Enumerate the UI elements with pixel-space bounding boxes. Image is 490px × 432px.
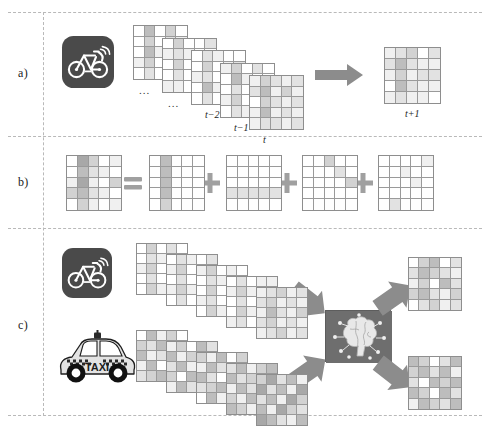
grid-cell bbox=[167, 285, 177, 295]
grid-cell bbox=[207, 373, 217, 383]
grid-cell bbox=[429, 48, 440, 59]
grid-cell bbox=[192, 83, 203, 94]
grid-cell bbox=[440, 300, 450, 310]
grid-cell bbox=[292, 108, 303, 119]
grid-cell bbox=[297, 328, 307, 338]
grid-cell bbox=[177, 342, 187, 352]
grid-cell bbox=[429, 92, 440, 103]
grid-cell bbox=[147, 274, 157, 284]
grid-cell bbox=[440, 258, 450, 268]
grid-cell bbox=[297, 405, 307, 415]
grid-cell bbox=[419, 378, 429, 388]
grid-cell bbox=[99, 156, 110, 167]
grid-cell bbox=[335, 156, 346, 167]
grid-cell bbox=[89, 199, 100, 210]
grid-cell bbox=[221, 95, 232, 106]
grid-cell bbox=[227, 317, 237, 327]
grid-cell bbox=[221, 74, 232, 85]
grid-cell bbox=[197, 393, 207, 403]
grid-cell bbox=[145, 47, 156, 58]
grid-cell bbox=[297, 288, 307, 298]
grid-cell bbox=[325, 188, 336, 199]
grid-cell bbox=[67, 199, 78, 210]
panel-divider-top bbox=[8, 12, 482, 13]
grid-cell bbox=[174, 81, 185, 92]
grid-cell bbox=[161, 167, 172, 178]
grid-cell bbox=[429, 59, 440, 70]
grid-cell bbox=[67, 188, 78, 199]
grid-cell bbox=[238, 156, 249, 167]
grid-cell bbox=[197, 286, 207, 296]
grid-cell bbox=[150, 156, 161, 167]
grid-cell bbox=[430, 258, 440, 268]
grid-cell bbox=[385, 48, 396, 59]
grid-cell bbox=[110, 199, 121, 210]
panel-a-frame-4 bbox=[249, 75, 304, 130]
grid-cell bbox=[224, 51, 235, 62]
grid-cell bbox=[277, 288, 287, 298]
grid-cell bbox=[277, 385, 287, 395]
grid-cell bbox=[430, 399, 440, 409]
grid-cell bbox=[451, 268, 461, 278]
grid-cell bbox=[271, 118, 282, 129]
grid-cell bbox=[227, 394, 237, 404]
grid-cell bbox=[282, 87, 293, 98]
grid-cell bbox=[78, 199, 89, 210]
grid-cell bbox=[203, 93, 214, 104]
grid-cell bbox=[401, 199, 412, 210]
grid-cell bbox=[177, 244, 187, 254]
grid-cell bbox=[277, 298, 287, 308]
panel-divider-left bbox=[43, 12, 44, 416]
grid-cell bbox=[182, 156, 193, 167]
grid-cell bbox=[287, 308, 297, 318]
grid-cell bbox=[314, 178, 325, 189]
grid-cell bbox=[232, 85, 243, 96]
grid-cell bbox=[177, 372, 187, 382]
grid-cell bbox=[207, 266, 217, 276]
grid-cell bbox=[430, 300, 440, 310]
grid-cell bbox=[440, 357, 450, 367]
grid-cell bbox=[147, 284, 157, 294]
grid-cell bbox=[396, 70, 407, 81]
grid-cell bbox=[250, 118, 261, 129]
grid-cell bbox=[232, 106, 243, 117]
grid-cell bbox=[401, 188, 412, 199]
grid-cell bbox=[166, 26, 177, 37]
grid-cell bbox=[407, 59, 418, 70]
grid-cell bbox=[237, 287, 247, 297]
grid-cell bbox=[174, 60, 185, 71]
grid-cell bbox=[205, 39, 216, 50]
grid-cell bbox=[430, 388, 440, 398]
grid-cell bbox=[257, 375, 267, 385]
grid-cell bbox=[257, 385, 267, 395]
grid-cell bbox=[282, 118, 293, 129]
grid-cell bbox=[385, 59, 396, 70]
grid-cell bbox=[419, 289, 429, 299]
grid-cell bbox=[110, 156, 121, 167]
grid-cell bbox=[407, 70, 418, 81]
grid-cell bbox=[78, 167, 89, 178]
grid-cell bbox=[134, 26, 145, 37]
grid-cell bbox=[271, 97, 282, 108]
grid-cell bbox=[422, 199, 433, 210]
grid-cell bbox=[78, 178, 89, 189]
grid-cell bbox=[227, 266, 237, 276]
grid-cell bbox=[177, 285, 187, 295]
grid-cell bbox=[379, 178, 390, 189]
bikeshare-icon bbox=[62, 36, 114, 88]
grid-cell bbox=[237, 266, 247, 276]
panel-b-component-3 bbox=[378, 155, 434, 211]
grid-cell bbox=[177, 295, 187, 305]
grid-cell bbox=[197, 383, 207, 393]
grid-cell bbox=[197, 276, 207, 286]
grid-cell bbox=[78, 188, 89, 199]
grid-cell bbox=[430, 289, 440, 299]
grid-cell bbox=[238, 167, 249, 178]
grid-cell bbox=[292, 76, 303, 87]
grid-cell bbox=[227, 307, 237, 317]
grid-cell bbox=[267, 318, 277, 328]
grid-cell bbox=[167, 244, 177, 254]
grid-cell bbox=[385, 81, 396, 92]
grid-cell bbox=[396, 48, 407, 59]
grid-cell bbox=[187, 342, 197, 352]
